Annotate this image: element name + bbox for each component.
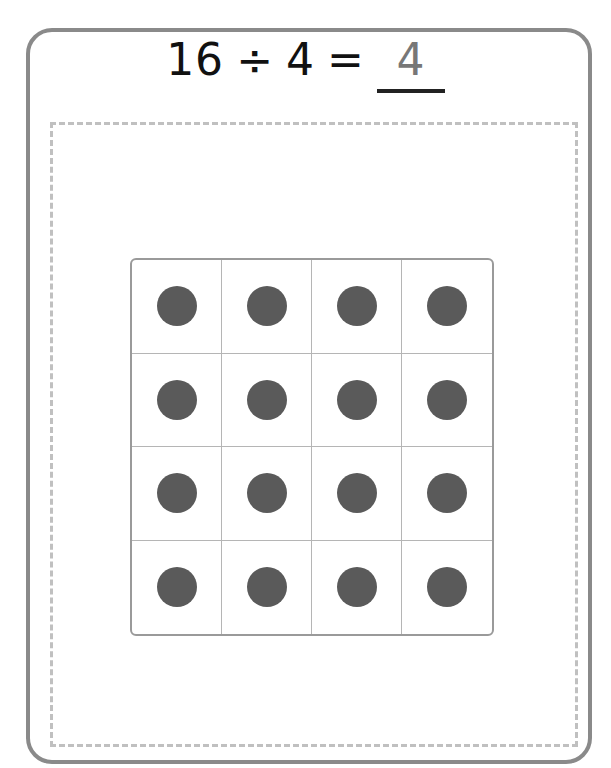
dot-icon bbox=[427, 567, 467, 607]
dot-icon bbox=[157, 286, 197, 326]
dot-icon bbox=[157, 473, 197, 513]
grid-cell bbox=[132, 541, 222, 635]
grid-cell bbox=[312, 354, 402, 448]
dot-icon bbox=[247, 286, 287, 326]
grid-cell bbox=[402, 354, 492, 448]
grid-cell bbox=[132, 260, 222, 354]
grid-cell bbox=[312, 541, 402, 635]
dot-icon bbox=[247, 473, 287, 513]
grid-cell bbox=[402, 447, 492, 541]
dot-icon bbox=[247, 567, 287, 607]
grid-cell bbox=[312, 447, 402, 541]
dot-icon bbox=[427, 286, 467, 326]
dot-icon bbox=[337, 567, 377, 607]
dot-icon bbox=[427, 473, 467, 513]
division-sign: ÷ bbox=[236, 34, 274, 85]
dividend: 16 bbox=[166, 34, 224, 85]
equals-sign: = bbox=[327, 34, 365, 85]
dot-icon bbox=[427, 380, 467, 420]
grid-cell bbox=[132, 354, 222, 448]
answer-blank[interactable]: 4 bbox=[377, 34, 445, 85]
grid-cell bbox=[402, 541, 492, 635]
dot-icon bbox=[157, 380, 197, 420]
grid-cell bbox=[222, 260, 312, 354]
dot-icon bbox=[247, 380, 287, 420]
dot-icon bbox=[337, 286, 377, 326]
grid-cell bbox=[222, 354, 312, 448]
dot-array-grid bbox=[130, 258, 494, 636]
division-equation: 16÷4=4 bbox=[0, 34, 611, 85]
grid-cell bbox=[402, 260, 492, 354]
dot-icon bbox=[157, 567, 197, 607]
grid-cell bbox=[222, 447, 312, 541]
grid-cell bbox=[222, 541, 312, 635]
grid-cell bbox=[132, 447, 222, 541]
dot-icon bbox=[337, 380, 377, 420]
dot-icon bbox=[337, 473, 377, 513]
grid-cell bbox=[312, 260, 402, 354]
divisor: 4 bbox=[286, 34, 315, 85]
